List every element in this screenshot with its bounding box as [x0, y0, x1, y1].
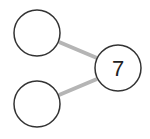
number-bond-diagram: 7	[0, 0, 150, 139]
connector-bottom	[59, 79, 97, 95]
connector-top	[59, 42, 97, 58]
part-circle-top[interactable]	[14, 10, 60, 56]
part-circle-bottom[interactable]	[14, 81, 60, 127]
whole-value: 7	[112, 56, 124, 81]
whole-circle: 7	[95, 45, 141, 91]
